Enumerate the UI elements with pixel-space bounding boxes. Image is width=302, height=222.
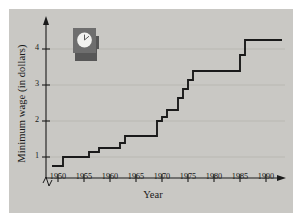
y-axis [42, 16, 52, 186]
x-tick-label-1950: 1950 [45, 172, 71, 181]
x-tick-label-1980: 1980 [201, 172, 227, 181]
x-tick-label-1975: 1975 [175, 172, 201, 181]
x-tick-label-1985: 1985 [227, 172, 253, 181]
x-axis-title: Year [118, 189, 188, 200]
y-tick-label-4: 4 [27, 43, 39, 52]
clock-icon [73, 28, 102, 62]
y-axis-title: Minimum wage (in dollars) [16, 39, 27, 169]
y-tick-label-3: 3 [27, 79, 39, 88]
x-tick-label-1955: 1955 [71, 172, 97, 181]
y-tick-label-1: 1 [27, 151, 39, 160]
minimum-wage-chart-figure: 4 3 2 1 1950 1955 1960 1965 1970 1975 19… [0, 0, 302, 222]
x-tick-label-1990: 1990 [253, 172, 279, 181]
y-tick-label-2: 2 [27, 115, 39, 124]
x-tick-label-1960: 1960 [97, 172, 123, 181]
x-tick-label-1970: 1970 [149, 172, 175, 181]
gridlines [46, 49, 285, 157]
x-tick-label-1965: 1965 [123, 172, 149, 181]
